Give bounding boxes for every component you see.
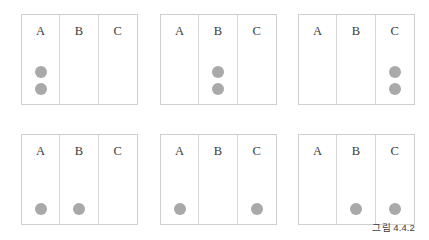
- urn-box-1: ABC: [21, 14, 138, 105]
- column-label: B: [75, 25, 84, 38]
- column-c[interactable]: C: [238, 15, 276, 104]
- column-c[interactable]: C: [99, 135, 137, 224]
- dot-stack: [60, 203, 97, 215]
- column-c[interactable]: C: [99, 15, 137, 104]
- ball-marker: [174, 203, 186, 215]
- column-label: C: [114, 145, 123, 158]
- column-c[interactable]: C: [376, 15, 414, 104]
- column-c[interactable]: C: [238, 135, 276, 224]
- column-label: B: [214, 25, 223, 38]
- column-label: B: [352, 145, 361, 158]
- ball-marker: [389, 66, 401, 78]
- column-b[interactable]: B: [199, 15, 237, 104]
- column-label: C: [391, 145, 400, 158]
- column-label: A: [36, 25, 45, 38]
- dot-stack: [337, 203, 374, 215]
- column-c[interactable]: C: [376, 135, 414, 224]
- column-label: A: [36, 145, 45, 158]
- column-label: C: [253, 25, 262, 38]
- ball-marker: [212, 83, 224, 95]
- ball-marker: [389, 203, 401, 215]
- column-a[interactable]: A: [161, 135, 199, 224]
- figure-container: ABCABCABCABCABCABC 그림 4.4.2: [0, 0, 429, 240]
- dot-stack: [376, 203, 414, 215]
- column-label: B: [352, 25, 361, 38]
- dot-stack: [22, 66, 59, 95]
- ball-marker: [73, 203, 85, 215]
- column-label: C: [114, 25, 123, 38]
- ball-marker: [251, 203, 263, 215]
- ball-marker: [350, 203, 362, 215]
- column-b[interactable]: B: [60, 135, 98, 224]
- column-label: B: [214, 145, 223, 158]
- column-label: C: [391, 25, 400, 38]
- dot-stack: [376, 66, 414, 95]
- column-b[interactable]: B: [337, 135, 375, 224]
- column-b[interactable]: B: [199, 135, 237, 224]
- column-label: B: [75, 145, 84, 158]
- dot-stack: [22, 203, 59, 215]
- column-label: C: [253, 145, 262, 158]
- column-b[interactable]: B: [60, 15, 98, 104]
- column-label: A: [313, 25, 322, 38]
- ball-marker: [212, 66, 224, 78]
- dot-stack: [199, 66, 236, 95]
- ball-marker: [35, 203, 47, 215]
- dot-stack: [161, 203, 198, 215]
- box-grid: ABCABCABCABCABCABC: [0, 0, 429, 222]
- urn-box-2: ABC: [160, 14, 277, 105]
- column-label: A: [313, 145, 322, 158]
- column-b[interactable]: B: [337, 15, 375, 104]
- urn-box-4: ABC: [21, 134, 138, 225]
- urn-box-5: ABC: [160, 134, 277, 225]
- ball-marker: [389, 83, 401, 95]
- column-label: A: [175, 25, 184, 38]
- ball-marker: [35, 66, 47, 78]
- column-a[interactable]: A: [22, 135, 60, 224]
- urn-box-6: ABC: [298, 134, 415, 225]
- urn-box-3: ABC: [298, 14, 415, 105]
- column-a[interactable]: A: [161, 15, 199, 104]
- figure-caption: 그림 4.4.2: [372, 220, 415, 234]
- column-a[interactable]: A: [299, 15, 337, 104]
- column-a[interactable]: A: [22, 15, 60, 104]
- column-label: A: [175, 145, 184, 158]
- dot-stack: [238, 203, 276, 215]
- column-a[interactable]: A: [299, 135, 337, 224]
- ball-marker: [35, 83, 47, 95]
